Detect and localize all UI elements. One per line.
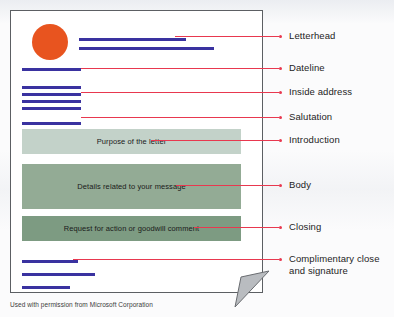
signature-line [22,273,95,276]
salutation-line [22,122,81,125]
leader-line-inside-address [81,92,279,93]
leader-dot-closing [279,226,282,229]
callout-label-introduction: Introduction [289,134,340,146]
callout-label-inside-address: Inside address [289,86,352,98]
leader-dot-dateline [279,67,282,70]
figure-credit: Used with permission from Microsoft Corp… [10,301,153,308]
dateline-line [22,68,81,71]
letter-block-introduction-label: Purpose of the letter [97,137,167,146]
complimentary-close-line [22,260,78,263]
callout-label-dateline: Dateline [289,62,325,74]
callout-label-salutation: Salutation [289,111,332,123]
letter-block-closing: Request for action or goodwill comment [22,216,241,241]
letter-block-introduction: Purpose of the letter [22,129,241,154]
leader-line-dateline [81,68,279,69]
inside-address-line-1 [22,86,81,89]
leader-line-closing [194,227,279,228]
inside-address-line-2 [22,93,81,96]
leader-line-introduction [151,140,279,141]
signature-name-line [22,286,70,289]
letter-page: Purpose of the letter Details related to… [10,10,263,293]
letter-block-body: Details related to your message [22,164,241,209]
letter-block-closing-label: Request for action or goodwill comment [64,224,200,233]
callout-label-closing: Closing [289,221,321,233]
leader-line-letterhead [175,36,279,37]
leader-dot-salutation [279,116,282,119]
leader-dot-body [279,184,282,187]
page-fold-corner-icon [216,267,276,313]
callout-label-body: Body [289,179,311,191]
inside-address-line-3 [22,100,81,103]
leader-dot-inside-address [279,91,282,94]
callout-label-letterhead: Letterhead [289,30,335,42]
leader-dot-letterhead [279,35,282,38]
letter-block-body-label: Details related to your message [77,182,186,191]
leader-line-complimentary-close [73,259,279,260]
letterhead-line-1 [79,38,186,41]
leader-dot-introduction [279,139,282,142]
inside-address-line-4 [22,107,81,110]
callout-label-complimentary-close: Complimentary close and signature [289,253,380,276]
leader-line-body [176,185,279,186]
letterhead-line-2 [79,47,214,50]
leader-dot-complimentary-close [279,258,282,261]
leader-line-salutation [81,117,279,118]
letterhead-logo-icon [32,24,68,60]
